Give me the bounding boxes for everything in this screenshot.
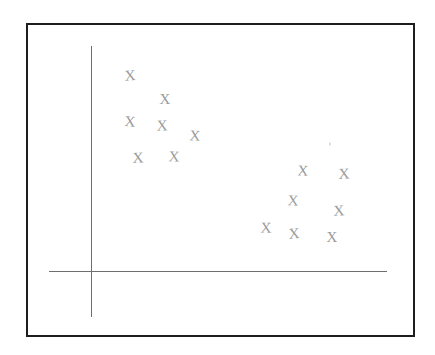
- scatter-point: X: [124, 68, 136, 84]
- scatter-point: X: [260, 220, 271, 235]
- figure-root: XXXXXXXXXXXXXX: [0, 0, 435, 355]
- scatter-point: X: [168, 149, 179, 164]
- scatter-point: X: [189, 128, 201, 144]
- faint-speck-mark: [329, 143, 331, 146]
- plot-area: XXXXXXXXXXXXXX: [28, 25, 413, 335]
- scatter-point: X: [156, 118, 167, 133]
- x-axis-line: [49, 271, 387, 272]
- scatter-point: X: [288, 226, 300, 242]
- figure-frame-border: XXXXXXXXXXXXXX: [26, 23, 415, 337]
- scatter-point: X: [160, 92, 171, 107]
- y-axis-line: [91, 46, 92, 317]
- scatter-point: X: [132, 150, 143, 165]
- scatter-point: X: [124, 114, 136, 130]
- scatter-point: X: [338, 166, 349, 181]
- scatter-point: X: [287, 193, 298, 208]
- scatter-point: X: [327, 230, 338, 245]
- scatter-point: X: [297, 163, 309, 179]
- scatter-point: X: [333, 203, 345, 219]
